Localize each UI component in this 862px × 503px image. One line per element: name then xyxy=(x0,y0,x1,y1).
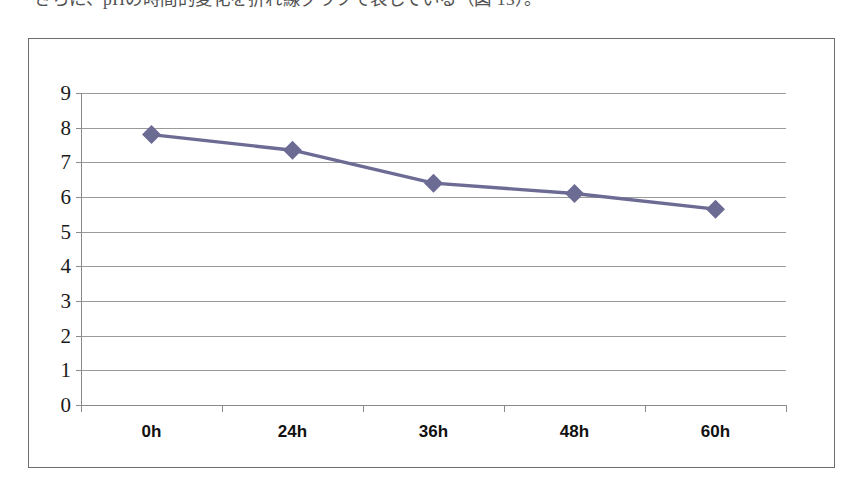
y-axis-label-5: 5 xyxy=(61,219,72,244)
y-axis-label-3: 3 xyxy=(61,289,72,314)
x-axis-label-36h: 36h xyxy=(419,422,448,442)
data-point-60h xyxy=(706,200,725,219)
x-axis-label-48h: 48h xyxy=(560,422,589,442)
data-point-36h xyxy=(424,174,443,193)
x-tick-3 xyxy=(504,405,505,412)
document-text-line: さらに、pHの時間的変化を折れ線グラフで表している（図 13）。 xyxy=(0,0,862,14)
x-tick-4 xyxy=(645,405,646,412)
x-axis-label-0h: 0h xyxy=(142,422,162,442)
y-axis-label-0: 0 xyxy=(61,393,72,418)
chart-figure-frame: 0123456789 0h24h36h48h60h xyxy=(28,38,835,468)
gridline-0 xyxy=(81,405,786,406)
x-tick-2 xyxy=(363,405,364,412)
y-axis-label-1: 1 xyxy=(61,358,72,383)
chart-plot-area: 0123456789 0h24h36h48h60h xyxy=(81,93,786,405)
y-axis-label-2: 2 xyxy=(61,323,72,348)
series-path-pH xyxy=(152,135,716,210)
data-point-24h xyxy=(283,141,302,160)
series-line-ph xyxy=(81,93,786,405)
y-axis-label-8: 8 xyxy=(61,115,72,140)
data-point-0h xyxy=(142,125,161,144)
document-text-fragment: さらに、pHの時間的変化を折れ線グラフで表している（図 13）。 xyxy=(34,0,541,10)
y-axis-label-7: 7 xyxy=(61,150,72,175)
y-axis-label-6: 6 xyxy=(61,185,72,210)
data-point-48h xyxy=(565,184,584,203)
x-axis-label-60h: 60h xyxy=(701,422,730,442)
x-tick-5 xyxy=(786,405,787,412)
y-axis-label-4: 4 xyxy=(61,254,72,279)
x-tick-1 xyxy=(222,405,223,412)
y-axis-label-9: 9 xyxy=(61,81,72,106)
x-tick-0 xyxy=(81,405,82,412)
x-axis-label-24h: 24h xyxy=(278,422,307,442)
